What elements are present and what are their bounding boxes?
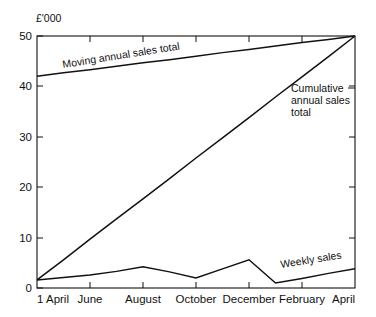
- x-tick-label-august: August: [125, 293, 162, 305]
- chart-background: [0, 0, 376, 317]
- y-tick-label-20: 20: [19, 181, 32, 193]
- x-tick-label-october: October: [176, 293, 217, 305]
- x-axis-tick-labels: 1 April June August October December Feb…: [37, 293, 355, 305]
- x-tick-label-april: April: [332, 293, 355, 305]
- series-label-cumulative-line-1: Cumulative: [291, 82, 344, 94]
- x-tick-label-february: February: [279, 293, 325, 305]
- x-tick-label-december: December: [222, 293, 275, 305]
- x-tick-label-june: June: [78, 293, 103, 305]
- x-tick-label-1-april: 1 April: [37, 293, 69, 305]
- y-tick-label-0: 0: [26, 282, 32, 294]
- chart-container: £'000 50 40 30 20 10 0: [0, 0, 376, 317]
- sales-line-chart: £'000 50 40 30 20 10 0: [0, 0, 376, 317]
- y-tick-label-40: 40: [19, 80, 32, 92]
- y-axis-unit-label: £'000: [36, 12, 62, 24]
- y-tick-label-10: 10: [19, 232, 32, 244]
- series-label-cumulative-line-2: annual sales: [291, 94, 350, 106]
- y-tick-label-50: 50: [19, 30, 32, 42]
- series-label-cumulative-line-3: total: [291, 106, 311, 118]
- y-tick-label-30: 30: [19, 131, 32, 143]
